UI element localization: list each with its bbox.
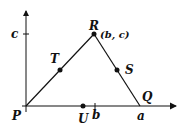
label-P: P xyxy=(11,109,22,123)
label-U: U xyxy=(78,112,90,126)
point-S xyxy=(115,68,120,73)
label-T: T xyxy=(50,52,60,66)
label-c: c xyxy=(11,27,19,41)
label-R-coords: (b, c) xyxy=(100,29,130,41)
label-Q: Q xyxy=(142,90,153,104)
point-T xyxy=(58,68,63,73)
point-U xyxy=(81,104,86,109)
coordinate-diagram: c R (b, c) T S Q P U b a xyxy=(0,0,189,130)
label-a: a xyxy=(137,109,145,123)
label-S: S xyxy=(125,63,134,77)
label-b: b xyxy=(92,108,100,122)
label-R: R xyxy=(88,19,99,33)
